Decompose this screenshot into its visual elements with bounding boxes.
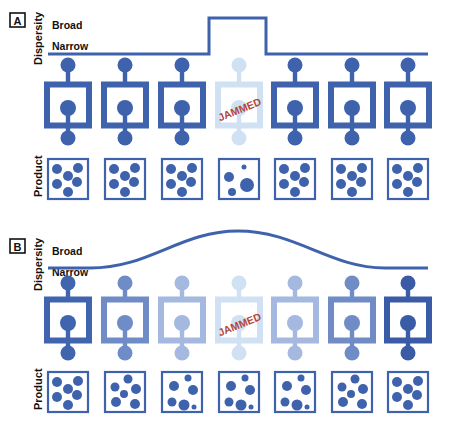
particle-icon xyxy=(300,163,310,173)
particle-icon xyxy=(52,164,62,174)
product-box xyxy=(105,159,145,199)
particle-icon xyxy=(298,375,305,382)
broad-label: Broad xyxy=(52,19,82,31)
particle-icon xyxy=(279,179,289,189)
particle-icon xyxy=(52,179,62,189)
machine xyxy=(331,58,373,146)
panel-label: A xyxy=(14,15,22,27)
particle-icon xyxy=(249,405,254,410)
product-box xyxy=(105,372,145,412)
product-axis-label: Product xyxy=(32,368,44,410)
particle-icon xyxy=(245,385,255,395)
product-axis-label: Product xyxy=(32,155,44,197)
input-stem xyxy=(180,65,184,84)
particle-icon xyxy=(392,377,402,387)
particle-icon xyxy=(129,177,139,187)
panel-a: ADispersityBroadNarrowJAMMEDProduct xyxy=(10,11,429,199)
input-stem xyxy=(293,65,297,84)
product-box xyxy=(388,372,428,412)
particle-icon xyxy=(63,187,73,197)
particle-icon xyxy=(111,383,120,392)
particle-icon xyxy=(169,381,179,391)
particle-icon xyxy=(290,171,300,181)
particle-icon xyxy=(347,171,357,181)
particle-icon xyxy=(356,177,366,187)
particle-icon xyxy=(403,187,413,197)
particle-icon xyxy=(347,187,357,197)
output-node-icon xyxy=(61,346,76,361)
particle-icon xyxy=(338,397,348,407)
output-node-icon xyxy=(232,346,247,361)
product-box xyxy=(162,159,202,199)
particle-icon xyxy=(242,165,247,170)
particle-icon xyxy=(236,400,247,411)
particle-icon xyxy=(299,177,309,187)
particle-icon xyxy=(72,390,82,400)
input-stem xyxy=(406,65,410,84)
particle-icon xyxy=(177,187,187,197)
machine xyxy=(104,58,146,146)
particle-icon xyxy=(347,390,355,398)
panel-label: B xyxy=(14,241,22,253)
particle-icon xyxy=(403,384,413,394)
particle-icon xyxy=(168,398,177,407)
particle-icon xyxy=(63,171,73,181)
output-node-icon xyxy=(118,346,133,361)
particle-icon xyxy=(403,400,413,410)
particle-icon xyxy=(413,163,423,173)
product-box xyxy=(48,159,88,199)
product-box xyxy=(275,159,315,199)
product-box xyxy=(219,372,259,412)
machine xyxy=(161,276,203,361)
particle-icon xyxy=(120,187,130,197)
particle-icon xyxy=(242,375,249,382)
particle-icon xyxy=(338,383,347,392)
particle-icon xyxy=(290,187,300,197)
particle-icon xyxy=(120,171,130,181)
particle-icon xyxy=(392,392,402,402)
machine xyxy=(104,276,146,361)
machine xyxy=(331,276,373,361)
particle-icon xyxy=(336,179,346,189)
broad-label: Broad xyxy=(52,245,82,257)
panel-b: BDispersityBroadNarrowJAMMEDProduct xyxy=(10,231,429,412)
particle-icon xyxy=(292,400,303,411)
product-box xyxy=(219,159,259,199)
particle-icon xyxy=(52,377,62,387)
particle-icon xyxy=(301,385,311,395)
particle-icon xyxy=(357,163,367,173)
particle-icon xyxy=(279,164,289,174)
dispersity-diagram: ADispersityBroadNarrowJAMMEDProductBDisp… xyxy=(0,0,450,423)
particle-icon xyxy=(186,177,196,187)
particle-icon xyxy=(392,164,402,174)
particle-icon xyxy=(412,390,422,400)
output-node-icon xyxy=(232,131,247,146)
output-node-icon xyxy=(288,131,303,146)
output-node-icon xyxy=(345,346,360,361)
machine xyxy=(274,276,316,361)
narrow-label: Narrow xyxy=(52,40,89,52)
output-node-icon xyxy=(118,131,133,146)
particle-icon xyxy=(63,400,73,410)
particle-icon xyxy=(225,398,234,407)
particle-icon xyxy=(413,376,423,386)
particle-icon xyxy=(403,171,413,181)
product-box xyxy=(275,372,315,412)
particle-icon xyxy=(109,164,119,174)
particle-icon xyxy=(228,188,236,196)
output-node-icon xyxy=(345,131,360,146)
particle-icon xyxy=(73,376,83,386)
dispersity-axis-label: Dispersity xyxy=(32,237,44,291)
dispersity-curve xyxy=(48,18,428,54)
machine xyxy=(161,58,203,146)
output-node-icon xyxy=(401,346,416,361)
particle-icon xyxy=(120,390,128,398)
particle-icon xyxy=(305,405,310,410)
particle-icon xyxy=(224,172,234,182)
particle-icon xyxy=(412,177,422,187)
particle-icon xyxy=(177,171,187,181)
output-node-icon xyxy=(288,346,303,361)
particle-icon xyxy=(336,164,346,174)
particle-icon xyxy=(131,384,141,394)
particle-icon xyxy=(357,399,367,409)
